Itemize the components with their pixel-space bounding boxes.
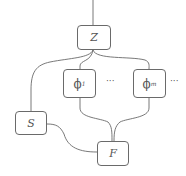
node-phi-1: ϕ1	[63, 69, 96, 98]
node-z: Z	[77, 25, 111, 50]
edge-s-f	[47, 124, 97, 152]
node-f: F	[97, 141, 129, 166]
ellipsis-between-phi: ···	[106, 76, 115, 86]
node-phi-1-subscript: 1	[82, 80, 86, 87]
edge-phi1-f	[80, 98, 112, 141]
diagram-canvas: Z ϕ1 ϕm S F ··· ···	[0, 0, 186, 176]
node-s-label: S	[27, 117, 35, 130]
node-phi-m-label: ϕ	[143, 77, 151, 91]
ellipsis-after-phi-m: ···	[170, 76, 179, 86]
node-phi-m: ϕm	[133, 69, 166, 98]
node-z-label: Z	[90, 31, 98, 44]
edge-phim-f	[114, 98, 149, 141]
edge-z-phim	[93, 50, 149, 69]
node-phi-m-subscript: m	[151, 80, 157, 87]
node-s: S	[15, 111, 47, 135]
node-phi-1-label: ϕ	[73, 77, 81, 91]
node-f-label: F	[109, 147, 117, 160]
